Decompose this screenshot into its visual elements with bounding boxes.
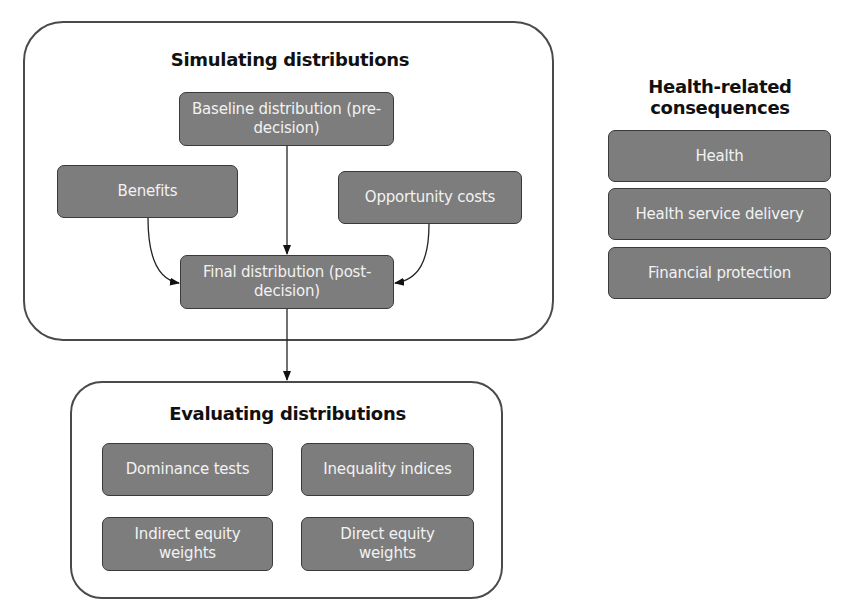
arrow-opportunity-to-final: [395, 224, 429, 283]
arrow-benefits-to-final: [148, 218, 179, 283]
connector-arrows: [0, 0, 847, 613]
